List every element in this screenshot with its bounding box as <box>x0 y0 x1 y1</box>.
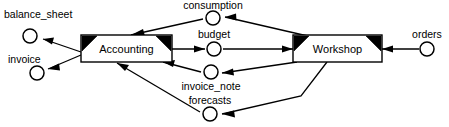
flow-node-balance-sheet[interactable]: balance_sheet <box>4 8 72 43</box>
flow-label-invoice: invoice <box>8 53 41 65</box>
diagram-canvas: Accounting Workshop balance_sheet invoic… <box>0 0 449 127</box>
edge-accounting-to-invoice <box>48 55 81 71</box>
edge-workshop-to-consumption <box>225 14 312 38</box>
edge-consumption-to-accounting <box>131 19 203 36</box>
process-workshop-label: Workshop <box>313 43 362 55</box>
flow-label-budget: budget <box>198 28 230 40</box>
flow-node-orders[interactable]: orders <box>412 28 442 56</box>
flow-label-balance-sheet: balance_sheet <box>4 8 72 20</box>
edge-accounting-to-budget <box>172 46 205 53</box>
edge-accounting-to-balance-sheet <box>43 38 81 53</box>
flow-label-consumption: consumption <box>183 0 243 11</box>
edge-budget-to-workshop <box>223 46 293 53</box>
process-workshop[interactable]: Workshop <box>293 35 382 62</box>
flow-label-forecasts: forecasts <box>189 94 232 106</box>
flow-node-forecasts[interactable]: forecasts <box>189 94 232 121</box>
process-accounting[interactable]: Accounting <box>81 35 172 62</box>
flow-label-orders: orders <box>412 28 442 40</box>
edge-workshop-to-invoice-note <box>222 62 297 76</box>
process-accounting-label: Accounting <box>99 43 153 55</box>
flow-label-invoice-note: invoice_note <box>182 80 241 92</box>
edge-orders-to-workshop <box>382 46 419 53</box>
flow-node-invoice[interactable]: invoice <box>8 53 44 80</box>
data-flow-diagram: Accounting Workshop balance_sheet invoic… <box>0 0 449 127</box>
flow-node-budget[interactable]: budget <box>198 28 230 56</box>
